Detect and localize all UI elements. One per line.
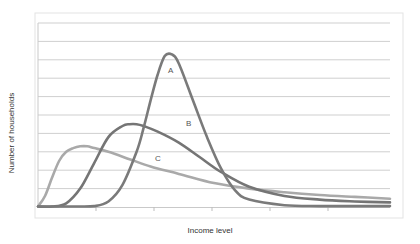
series-curve-b [38,124,390,207]
gridlines [38,23,390,189]
y-axis-title-text: Number of households [7,93,16,174]
series-layer [38,53,390,206]
x-axis-title-text: Income level [188,226,233,235]
curve-label-c: C [155,154,161,163]
y-axis-title: Number of households [4,88,18,178]
x-axis-title: Income level [0,226,420,235]
curve-label-b: B [186,119,191,128]
curve-label-a: A [168,66,173,75]
income-distribution-chart [0,0,420,244]
